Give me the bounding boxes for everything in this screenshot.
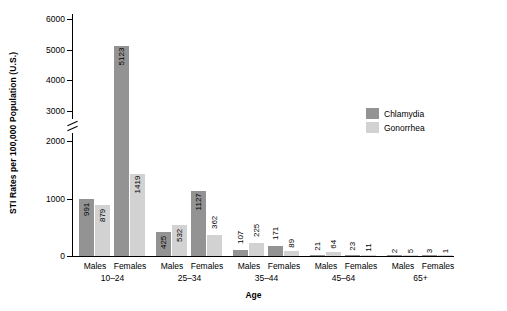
x-axis-sex-label: Females xyxy=(190,261,224,271)
bar-gonorrhea[interactable] xyxy=(361,255,376,256)
bar-wrapper: 3 xyxy=(422,255,438,256)
bar-wrapper: 89 xyxy=(284,251,300,256)
x-axis-sex-label: Males xyxy=(155,261,189,271)
y-axis-tick-label: 0 xyxy=(60,251,65,261)
y-axis-tick-label: 3000 xyxy=(46,106,65,116)
bar-value-label: 5 xyxy=(407,244,416,254)
legend-label-chlamydia: Chlamydia xyxy=(384,109,424,119)
bar-gonorrhea[interactable] xyxy=(403,255,418,256)
y-axis-tick xyxy=(67,141,72,142)
bar-value-label: 89 xyxy=(285,237,298,247)
chart-legend: Chlamydia Gonorrhea xyxy=(366,108,425,136)
bar-value-label: 362 xyxy=(206,219,224,229)
x-axis-age-label: 10–24 xyxy=(78,273,147,283)
x-axis-sex-label: Males xyxy=(232,261,266,271)
bar-group: 2311 xyxy=(344,255,378,256)
bar-wrapper: 2 xyxy=(387,255,403,256)
bar-wrapper: 1 xyxy=(438,255,454,256)
bar-wrapper: 425 xyxy=(156,232,172,256)
x-axis-sex-label: Females xyxy=(113,261,147,271)
y-axis-tick xyxy=(67,50,72,51)
bar-wrapper: 21 xyxy=(310,255,326,256)
y-axis-tick xyxy=(67,80,72,81)
bar-value-label: 3 xyxy=(426,244,435,254)
x-axis-line xyxy=(72,256,454,257)
bar-gonorrhea[interactable] xyxy=(438,255,453,256)
legend-swatch-gonorrhea xyxy=(366,122,379,133)
bar-group: 31 xyxy=(421,255,455,256)
bar-chlamydia[interactable] xyxy=(387,255,402,256)
y-axis-title: STI Rates per 100,000 Population (U.S.) xyxy=(2,0,24,265)
sti-rates-bar-chart: STI Rates per 100,000 Population (U.S.) … xyxy=(0,0,507,311)
axis-break-marker xyxy=(67,119,78,132)
bar-wrapper: 225 xyxy=(249,243,265,256)
bar-wrapper: 11 xyxy=(361,255,377,256)
bar-chlamydia[interactable] xyxy=(114,46,129,256)
x-axis-sex-label: Males xyxy=(386,261,420,271)
bar-chlamydia[interactable] xyxy=(310,255,325,256)
bar-group: 1127362 xyxy=(190,191,224,256)
bar-wrapper: 1419 xyxy=(130,174,146,256)
x-axis-sex-label: Females xyxy=(421,261,455,271)
bar-chlamydia[interactable] xyxy=(268,246,283,256)
legend-item-gonorrhea: Gonorrhea xyxy=(366,122,425,133)
x-axis-age-label: 25–34 xyxy=(155,273,224,283)
x-axis-sex-label: Females xyxy=(344,261,378,271)
bar-group: 25 xyxy=(386,255,420,256)
bar-value-label: 879 xyxy=(94,213,112,223)
bar-group: 107225 xyxy=(232,243,266,256)
bar-wrapper: 879 xyxy=(95,205,111,256)
bar-chlamydia[interactable] xyxy=(422,255,437,256)
x-axis-sex-label: Males xyxy=(78,261,112,271)
bar-value-label: 225 xyxy=(248,227,266,237)
legend-item-chlamydia: Chlamydia xyxy=(366,108,425,119)
bar-gonorrhea[interactable] xyxy=(326,252,341,256)
y-axis-tick-label: 2000 xyxy=(46,136,65,146)
bar-wrapper: 532 xyxy=(172,225,188,256)
bar-value-label: 23 xyxy=(346,241,359,251)
bar-value-label: 21 xyxy=(311,241,324,251)
bar-wrapper: 5123 xyxy=(114,46,130,256)
legend-label-gonorrhea: Gonorrhea xyxy=(384,123,425,133)
y-axis-line xyxy=(72,14,73,257)
bar-wrapper: 1127 xyxy=(191,191,207,256)
x-axis-sex-label: Females xyxy=(267,261,301,271)
bar-wrapper: 991 xyxy=(79,199,95,256)
bar-value-label: 1127 xyxy=(188,201,211,211)
bar-gonorrhea[interactable] xyxy=(284,251,299,256)
bar-wrapper: 64 xyxy=(326,252,342,256)
bar-value-label: 532 xyxy=(171,232,189,242)
y-axis-tick xyxy=(67,256,72,257)
bar-wrapper: 23 xyxy=(345,255,361,256)
bar-group: 425532 xyxy=(155,225,189,256)
x-axis-age-label: 65+ xyxy=(386,273,455,283)
legend-swatch-chlamydia xyxy=(366,108,379,119)
y-axis-tick-label: 1000 xyxy=(46,194,65,204)
bar-value-label: 2 xyxy=(391,244,400,254)
y-axis-tick-label: 5000 xyxy=(46,45,65,55)
x-axis-age-label: 45–64 xyxy=(309,273,378,283)
bar-gonorrhea[interactable] xyxy=(249,243,264,256)
bar-value-label: 64 xyxy=(327,239,340,249)
y-axis-tick xyxy=(67,19,72,20)
bar-value-label: 5123 xyxy=(111,55,134,65)
y-axis-tick xyxy=(67,199,72,200)
bar-group: 17189 xyxy=(267,246,301,256)
y-axis-tick xyxy=(67,111,72,112)
x-axis-age-label: 35–44 xyxy=(232,273,301,283)
bar-wrapper: 362 xyxy=(207,235,223,256)
x-axis-title: Age xyxy=(0,290,507,300)
bar-value-label: 1419 xyxy=(127,184,150,194)
bar-chlamydia[interactable] xyxy=(233,250,248,256)
bar-wrapper: 107 xyxy=(233,250,249,256)
bar-group: 991879 xyxy=(78,199,112,256)
bar-value-label: 11 xyxy=(362,241,375,251)
bar-value-label: 1 xyxy=(442,244,451,254)
bar-chlamydia[interactable] xyxy=(345,255,360,256)
bar-gonorrhea[interactable] xyxy=(207,235,222,256)
y-axis-title-text: STI Rates per 100,000 Population (U.S.) xyxy=(8,51,18,213)
bar-wrapper: 171 xyxy=(268,246,284,256)
bar-group: 51231419 xyxy=(113,46,147,256)
y-axis-tick-label: 4000 xyxy=(46,75,65,85)
bar-value-label: 171 xyxy=(267,230,285,240)
